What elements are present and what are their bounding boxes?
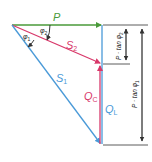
power-triangle-diagram: P S2 S1 QC QL φ2 φ1 P · tan φ2 P · tan φ… — [0, 0, 152, 162]
angle-phi2-arc — [47, 25, 50, 40]
label-s2: S2 — [66, 39, 77, 52]
label-s1: S1 — [56, 72, 67, 85]
label-ql: QL — [105, 103, 118, 116]
label-dim-short: P · tan φ2 — [115, 32, 124, 60]
label-dim-long: P · tan φ1 — [131, 80, 140, 108]
apparent-power-s2-vector — [12, 25, 100, 63]
apparent-power-s1-vector — [12, 25, 100, 143]
label-phi2: φ2 — [40, 27, 48, 36]
label-qc: QC — [84, 90, 98, 103]
label-p: P — [53, 11, 61, 23]
